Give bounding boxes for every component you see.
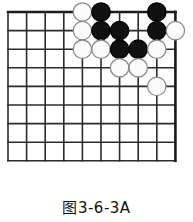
white-stone (73, 21, 91, 39)
black-stone (92, 3, 110, 21)
white-stone (129, 59, 147, 77)
figure-caption: 图3-6-3A (0, 196, 193, 217)
black-stone (148, 3, 166, 21)
white-stone (92, 40, 110, 58)
white-stone (148, 77, 166, 95)
go-diagram-figure: 图3-6-3A (0, 0, 193, 222)
black-stone (92, 21, 110, 39)
go-board-canvas (0, 0, 193, 195)
white-stone (148, 40, 166, 58)
white-stone (166, 21, 184, 39)
black-stone (110, 21, 128, 39)
black-stone (110, 40, 128, 58)
white-stone (73, 3, 91, 21)
white-stone (73, 40, 91, 58)
black-stone (129, 40, 147, 58)
white-stone (110, 59, 128, 77)
black-stone (148, 21, 166, 39)
go-board (0, 0, 193, 195)
